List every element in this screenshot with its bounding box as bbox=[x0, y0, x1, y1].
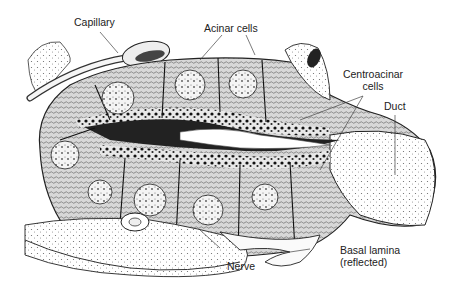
label-centroacinar-line1: Centroacinar bbox=[338, 68, 408, 80]
label-basal-lamina: Basal lamina (reflected) bbox=[340, 244, 400, 268]
label-basal-lamina-line1: Basal lamina bbox=[340, 244, 400, 256]
label-acinar-cells: Acinar cells bbox=[204, 22, 258, 34]
label-centroacinar-line2: cells bbox=[338, 80, 408, 92]
label-basal-lamina-line2: (reflected) bbox=[340, 256, 400, 268]
label-centroacinar-cells: Centroacinar cells bbox=[338, 68, 408, 92]
label-nerve: Nerve bbox=[227, 260, 255, 272]
label-duct: Duct bbox=[384, 100, 406, 112]
label-capillary: Capillary bbox=[74, 16, 115, 28]
